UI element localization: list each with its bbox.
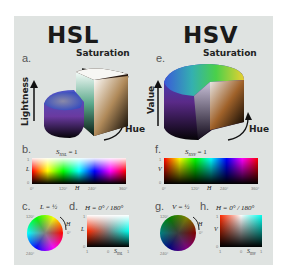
panel-h-ytick-bottom: 0	[216, 244, 218, 249]
panel-g-tick-120: 120°	[160, 214, 168, 219]
panel-g-hue-arrow-icon	[192, 216, 202, 232]
hsl-title: HSL	[47, 22, 99, 48]
panel-f-ytick-bottom: 0	[159, 180, 161, 185]
hsv-saturation-value-slice	[220, 215, 262, 247]
panel-f-xaxis: H	[207, 185, 211, 191]
panel-h-xtick-mid: 0	[240, 249, 242, 254]
panel-g-caption: V = ½	[172, 203, 190, 211]
panel-d-ytick-bottom: 0	[83, 244, 85, 249]
panel-h-xtick-right: 1	[260, 249, 262, 254]
panel-d-xtick-left: 1	[86, 249, 88, 254]
panel-b-caption: SHSL = 1	[56, 148, 78, 157]
panel-b-xtick-2: 240°	[88, 186, 96, 191]
hsv-title: HSV	[183, 22, 238, 48]
panel-f-xtick-3: 360°	[251, 186, 259, 191]
panel-g-letter: g.	[155, 200, 164, 212]
panel-d-yaxis: L	[81, 226, 84, 232]
panel-b-xaxis: H	[75, 185, 79, 191]
panel-b-xtick-3: 360°	[119, 186, 127, 191]
hsl-hue-wheel	[27, 215, 63, 251]
panel-c-letter: c.	[22, 200, 31, 212]
hsl-cylinder-diagram	[24, 56, 136, 141]
panel-h-xaxis: SHSV	[247, 248, 256, 256]
panel-d-xtick-mid: 0	[107, 249, 109, 254]
panel-b-xtick-0: 0°	[30, 186, 34, 191]
panel-f-yaxis: V	[158, 166, 162, 172]
panel-f-caption: SHSV = 1	[185, 148, 207, 157]
hsl-saturation-lightness-slice	[87, 215, 129, 247]
panel-h-yaxis: V	[214, 226, 218, 232]
panel-f-xtick-2: 240°	[220, 186, 228, 191]
panel-h-caption: H = 0° / 180°	[216, 204, 254, 212]
panel-c-caption: L = ½	[40, 203, 57, 211]
panel-b-ytick-bottom: 0	[27, 180, 29, 185]
panel-c-tick-240: 240°	[26, 251, 34, 256]
panel-c-tick-120: 120°	[26, 214, 34, 219]
panel-h-xtick-left: 1	[219, 249, 221, 254]
panel-g-tick-240: 240°	[160, 251, 168, 256]
panel-b-ytick-top: 1	[27, 157, 29, 162]
hsv-hue-wheel	[160, 215, 196, 251]
hsv-cylinder-diagram	[150, 56, 270, 141]
panel-h-ytick-top: 1	[216, 214, 218, 219]
panel-f-letter: f.	[155, 143, 161, 155]
panel-f-xtick-1: 120°	[191, 186, 199, 191]
panel-d-ytick-top: 1	[83, 214, 85, 219]
hsv-hue-value-strip	[164, 158, 258, 184]
panel-f-ytick-top: 1	[159, 157, 161, 162]
panel-d-letter: d.	[69, 200, 78, 212]
panel-d-caption: H = 0° / 180°	[85, 204, 123, 212]
panel-h-letter: h.	[200, 200, 209, 212]
hsl-hue-lightness-strip	[32, 158, 126, 184]
panel-d-xtick-right: 1	[127, 249, 129, 254]
panel-d-xaxis: SHSL	[114, 248, 122, 256]
panel-f-xtick-0: 0°	[162, 186, 166, 191]
panel-b-letter: b.	[22, 143, 31, 155]
panel-c-hue-arrow-icon	[59, 216, 69, 232]
panel-b-yaxis: L	[26, 166, 29, 172]
panel-b-xtick-1: 120°	[59, 186, 67, 191]
